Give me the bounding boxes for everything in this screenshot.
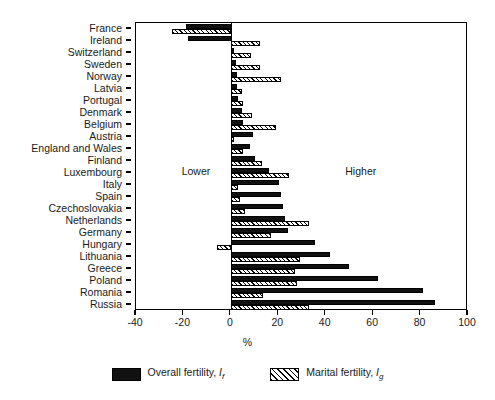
bar-marital-fertility (231, 101, 243, 106)
y-axis-label: Sweden (84, 59, 122, 70)
bar-marital-fertility (231, 77, 281, 82)
x-axis-tick-label: 40 (305, 317, 345, 328)
y-axis-label: Luxembourg (64, 167, 122, 178)
x-axis-tick-label: 100 (447, 317, 487, 328)
x-axis-tick-label: 60 (352, 317, 392, 328)
annotation-lower: Lower (182, 165, 211, 177)
x-axis-tick-label: -40 (115, 317, 155, 328)
y-axis-label: Denmark (79, 107, 122, 118)
y-axis-label: Finland (88, 155, 122, 166)
bar-marital-fertility (217, 245, 231, 250)
x-axis-tick-label: 0 (210, 317, 250, 328)
y-axis-tick (126, 279, 131, 280)
y-axis-label: Netherlands (65, 215, 122, 226)
bar-overall-fertility (188, 36, 231, 41)
y-axis-label: England and Wales (31, 143, 122, 154)
y-axis-label: Italy (103, 179, 122, 190)
y-axis-label: Ireland (90, 35, 122, 46)
bar-marital-fertility (231, 233, 271, 238)
x-axis-tick (229, 310, 230, 315)
bar-overall-fertility (231, 180, 280, 185)
y-axis-label: Switzerland (68, 47, 122, 58)
plot-area: Lower Higher (135, 22, 467, 310)
legend-label-marital-fertility: Marital fertility, Ig (306, 366, 383, 381)
x-axis-tick (324, 310, 325, 315)
y-axis-tick (126, 111, 131, 112)
x-axis-tick (419, 310, 420, 315)
y-axis-label: Czechoslovakia (48, 203, 122, 214)
y-axis-tick (126, 27, 131, 28)
bar-marital-fertility (231, 161, 262, 166)
x-axis-tick (372, 310, 373, 315)
bar-marital-fertility (231, 185, 238, 190)
y-axis-tick (126, 123, 131, 124)
y-axis-label: Russia (90, 299, 122, 310)
y-axis-tick (126, 291, 131, 292)
bar-marital-fertility (231, 149, 243, 154)
bar-marital-fertility (231, 137, 235, 142)
y-axis-tick (126, 243, 131, 244)
y-axis-tick (126, 147, 131, 148)
y-axis-tick (126, 135, 131, 136)
bar-marital-fertility (231, 173, 289, 178)
y-axis-tick (126, 159, 131, 160)
y-axis-tick (126, 87, 131, 88)
y-axis-tick (126, 75, 131, 76)
bar-marital-fertility (231, 293, 263, 298)
bar-marital-fertility (231, 221, 309, 226)
y-axis-label: Hungary (82, 239, 122, 250)
y-axis-tick (126, 63, 131, 64)
bar-marital-fertility (231, 257, 300, 262)
legend-label-overall-fertility: Overall fertility, If (148, 366, 225, 381)
legend-swatch-solid-icon (112, 368, 141, 381)
bar-marital-fertility (231, 269, 295, 274)
bar-marital-fertility (231, 209, 245, 214)
y-axis-tick (126, 255, 131, 256)
y-axis-tick (126, 267, 131, 268)
x-axis-tick (277, 310, 278, 315)
bar-marital-fertility (231, 113, 252, 118)
y-axis-label: Romania (80, 287, 122, 298)
y-axis-tick (126, 219, 131, 220)
x-axis-tick-label: 80 (400, 317, 440, 328)
bar-marital-fertility (231, 65, 261, 70)
legend-item-marital-fertility: Marital fertility, Ig (270, 366, 383, 381)
y-axis-label: Latvia (94, 83, 122, 94)
y-axis-label: Belgium (84, 119, 122, 130)
bar-marital-fertility (231, 281, 297, 286)
bar-overall-fertility (231, 240, 315, 245)
y-axis-label: Germany (79, 227, 122, 238)
y-axis-label: Spain (95, 191, 122, 202)
x-axis-title: % (0, 336, 495, 348)
y-axis-tick (126, 303, 131, 304)
y-axis-tick (126, 231, 131, 232)
y-axis-label: Portugal (83, 95, 122, 106)
x-axis-tick (134, 310, 135, 315)
y-axis-label: Lithuania (79, 251, 122, 262)
x-axis-tick-label: 20 (257, 317, 297, 328)
y-axis-tick (126, 171, 131, 172)
x-axis-tick-label: -20 (162, 317, 202, 328)
y-axis-label: Poland (89, 275, 122, 286)
y-axis-tick (126, 183, 131, 184)
y-axis-tick (126, 39, 131, 40)
annotation-higher: Higher (345, 165, 376, 177)
y-axis-labels: FranceIrelandSwitzerlandSwedenNorwayLatv… (0, 22, 131, 310)
y-axis-label: Austria (89, 131, 122, 142)
chart-legend: Overall fertility, If Marital fertility,… (0, 362, 495, 386)
bar-marital-fertility (231, 41, 261, 46)
y-axis-tick (126, 51, 131, 52)
fertility-bar-chart: FranceIrelandSwitzerlandSwedenNorwayLatv… (0, 0, 495, 400)
x-axis-tick (466, 310, 467, 315)
y-axis-tick (126, 99, 131, 100)
y-axis-tick (126, 207, 131, 208)
y-axis-tick (126, 195, 131, 196)
bar-marital-fertility (172, 29, 231, 34)
bar-marital-fertility (231, 89, 242, 94)
y-axis-label: France (89, 23, 122, 34)
legend-item-overall-fertility: Overall fertility, If (112, 366, 225, 381)
bar-marital-fertility (231, 197, 240, 202)
y-axis-label: Greece (88, 263, 122, 274)
bar-marital-fertility (231, 53, 251, 58)
bar-marital-fertility (231, 125, 276, 130)
